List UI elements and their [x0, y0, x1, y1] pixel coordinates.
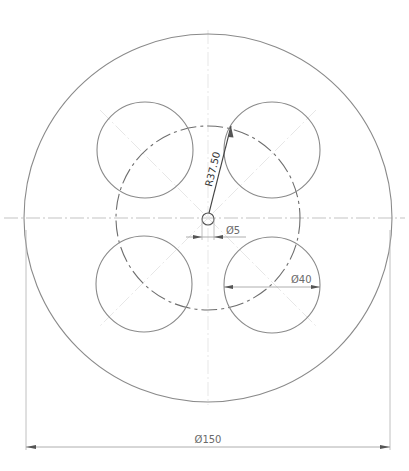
radius-label: R37.50 — [203, 151, 222, 188]
center-hole-label: Ø5 — [226, 225, 240, 236]
hole-diameter-label: Ø40 — [291, 274, 312, 285]
pitch-radius-dimension: R37.50 — [203, 126, 234, 213]
arrow-left — [26, 445, 36, 449]
centerlines — [4, 30, 405, 405]
technical-drawing: R37.50 Ø5 Ø40 Ø150 — [0, 0, 409, 471]
hole-top-left — [97, 102, 193, 198]
hole-bottom-left — [96, 236, 192, 332]
center-hole-dimension: Ø5 — [186, 220, 246, 240]
arrow-right — [380, 445, 390, 449]
arrow-left — [193, 235, 202, 239]
outer-diameter-label: Ø150 — [195, 434, 222, 445]
arrow-right — [311, 285, 320, 289]
arrow-right — [214, 235, 223, 239]
arrow-left — [224, 285, 233, 289]
hole-diameter-dimension: Ø40 — [224, 274, 320, 289]
hole-top-right — [224, 102, 320, 198]
hole-bottom-right — [224, 237, 320, 333]
